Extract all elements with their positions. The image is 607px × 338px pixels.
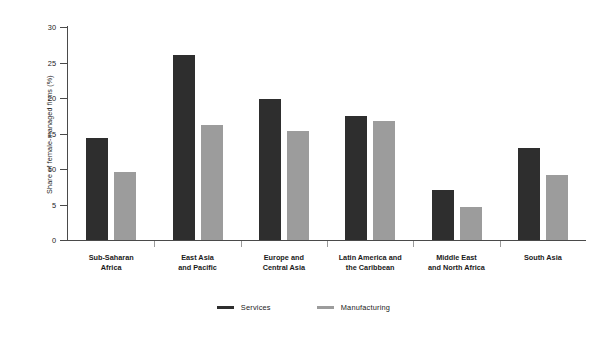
category-label-line: and Pacific — [154, 263, 240, 273]
x-axis-category-label: Europe andCentral Asia — [241, 253, 327, 272]
bar-manufacturing — [287, 131, 309, 240]
category-label-line: Middle East — [413, 253, 499, 263]
legend-swatch-icon — [217, 306, 234, 309]
legend-label: Manufacturing — [341, 303, 390, 312]
y-axis-tick — [60, 205, 67, 206]
category-label-line: Europe and — [241, 253, 327, 263]
category-label-line: South Asia — [500, 253, 586, 263]
x-axis-category-label: Sub-SaharanAfrica — [68, 253, 154, 272]
y-axis-tick-label: 25 — [34, 59, 56, 68]
x-axis-category-label: South Asia — [500, 253, 586, 263]
x-axis-category-label: Middle Eastand North Africa — [413, 253, 499, 272]
legend-item-services[interactable]: Services — [217, 303, 271, 312]
bar-manufacturing — [114, 172, 136, 240]
bar-manufacturing — [201, 125, 223, 240]
bars-layer — [68, 27, 586, 240]
category-label-line: Sub-Saharan — [68, 253, 154, 263]
category-label-line: Latin America and — [327, 253, 413, 263]
category-label-line: East Asia — [154, 253, 240, 263]
bar-services — [432, 190, 454, 240]
legend-swatch-icon — [317, 306, 334, 309]
bar-chart: Share of female-managed firms (%) 051015… — [0, 0, 607, 338]
bar-manufacturing — [460, 207, 482, 240]
category-label-line: Central Asia — [241, 263, 327, 273]
y-axis-tick — [60, 240, 67, 241]
bar-services — [518, 148, 540, 240]
y-axis-tick-label: 5 — [34, 201, 56, 210]
group-separator-tick — [327, 241, 328, 247]
group-separator-tick — [154, 241, 155, 247]
chart-legend: ServicesManufacturing — [0, 303, 607, 312]
legend-label: Services — [241, 303, 271, 312]
bar-services — [173, 55, 195, 240]
category-label-line: Africa — [68, 263, 154, 273]
group-separator-tick — [241, 241, 242, 247]
y-axis-tick — [60, 63, 67, 64]
y-axis-tick — [60, 27, 67, 28]
y-axis-tick-label: 0 — [34, 236, 56, 245]
group-separator-tick — [413, 241, 414, 247]
y-axis-tick — [60, 98, 67, 99]
group-separator-tick — [500, 241, 501, 247]
x-axis-category-label: East Asiaand Pacific — [154, 253, 240, 272]
bar-manufacturing — [546, 175, 568, 240]
category-label-line: the Caribbean — [327, 263, 413, 273]
bar-manufacturing — [373, 121, 395, 240]
bar-services — [86, 138, 108, 240]
category-label-line: and North Africa — [413, 263, 499, 273]
y-axis-tick-label: 20 — [34, 94, 56, 103]
y-axis-tick — [60, 134, 67, 135]
y-axis-tick — [60, 169, 67, 170]
x-axis-category-label: Latin America andthe Caribbean — [327, 253, 413, 272]
bar-services — [259, 99, 281, 240]
y-axis-tick-label: 15 — [34, 130, 56, 139]
y-axis-tick-label: 10 — [34, 165, 56, 174]
bar-services — [345, 116, 367, 240]
legend-item-manufacturing[interactable]: Manufacturing — [317, 303, 390, 312]
y-axis-tick-label: 30 — [34, 23, 56, 32]
